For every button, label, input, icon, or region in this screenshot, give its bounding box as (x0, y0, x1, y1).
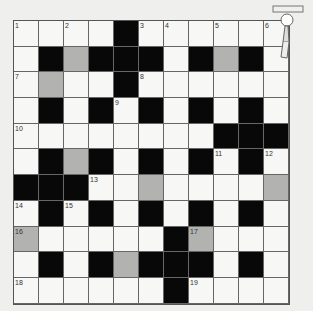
crossword-cell[interactable]: 3 (139, 21, 164, 47)
crossword-cell[interactable] (64, 252, 89, 278)
crossword-cell[interactable] (89, 278, 114, 304)
crossword-cell[interactable] (114, 201, 139, 227)
crossword-cell[interactable] (264, 278, 289, 304)
black-square (164, 278, 189, 304)
crossword-cell[interactable] (164, 72, 189, 98)
crossword-cell[interactable] (14, 47, 39, 73)
crossword-cell[interactable]: 8 (139, 72, 164, 98)
crossword-cell[interactable] (14, 98, 39, 124)
crossword-cell[interactable] (39, 227, 64, 253)
crossword-cell[interactable] (89, 21, 114, 47)
shaded-square[interactable] (114, 252, 139, 278)
black-square (114, 47, 139, 73)
black-square (39, 201, 64, 227)
crossword-cell[interactable] (189, 72, 214, 98)
black-square (139, 149, 164, 175)
shaded-square[interactable] (214, 47, 239, 73)
black-square (14, 175, 39, 201)
shaded-square[interactable] (264, 175, 289, 201)
crossword-cell[interactable] (89, 72, 114, 98)
clue-number: 13 (90, 175, 98, 184)
crossword-cell[interactable] (139, 227, 164, 253)
black-square (214, 124, 239, 150)
crossword-cell[interactable] (214, 72, 239, 98)
clue-number: 15 (65, 201, 73, 210)
black-square (39, 47, 64, 73)
shaded-square[interactable] (139, 175, 164, 201)
crossword-cell[interactable]: 9 (114, 98, 139, 124)
crossword-cell[interactable] (264, 98, 289, 124)
crossword-cell[interactable] (214, 175, 239, 201)
crossword-cell[interactable] (189, 21, 214, 47)
black-square (239, 47, 264, 73)
crossword-cell[interactable] (164, 124, 189, 150)
crossword-cell[interactable] (114, 278, 139, 304)
crossword-cell[interactable] (264, 227, 289, 253)
crossword-cell[interactable] (214, 278, 239, 304)
crossword-cell[interactable]: 18 (14, 278, 39, 304)
crossword-cell[interactable] (164, 149, 189, 175)
crossword-cell[interactable]: 11 (214, 149, 239, 175)
crossword-cell[interactable] (39, 21, 64, 47)
crossword-cell[interactable]: 14 (14, 201, 39, 227)
crossword-cell[interactable] (264, 201, 289, 227)
black-square (264, 124, 289, 150)
crossword-cell[interactable] (164, 201, 189, 227)
crossword-cell[interactable] (239, 21, 264, 47)
crossword-cell[interactable] (139, 278, 164, 304)
crossword-cell[interactable] (239, 175, 264, 201)
crossword-cell[interactable] (114, 227, 139, 253)
shaded-square[interactable] (64, 149, 89, 175)
black-square (189, 252, 214, 278)
crossword-cell[interactable] (89, 124, 114, 150)
black-square (239, 149, 264, 175)
black-square (139, 252, 164, 278)
black-square (239, 252, 264, 278)
crossword-cell[interactable] (39, 124, 64, 150)
crossword-cell[interactable] (164, 175, 189, 201)
crossword-cell[interactable] (64, 98, 89, 124)
crossword-cell[interactable] (214, 98, 239, 124)
crossword-cell[interactable] (164, 47, 189, 73)
crossword-cell[interactable] (189, 124, 214, 150)
crossword-cell[interactable] (14, 149, 39, 175)
crossword-cell[interactable] (114, 124, 139, 150)
crossword-cell[interactable] (64, 124, 89, 150)
black-square (89, 47, 114, 73)
shaded-square[interactable] (39, 72, 64, 98)
shaded-square[interactable] (64, 47, 89, 73)
crossword-cell[interactable] (214, 201, 239, 227)
crossword-cell[interactable] (64, 227, 89, 253)
crossword-cell[interactable]: 12 (264, 149, 289, 175)
crossword-cell[interactable] (14, 252, 39, 278)
crossword-cell[interactable]: 7 (14, 72, 39, 98)
crossword-cell[interactable]: 2 (64, 21, 89, 47)
crossword-cell[interactable] (39, 278, 64, 304)
crossword-cell[interactable] (114, 149, 139, 175)
crossword-cell[interactable] (239, 278, 264, 304)
crossword-cell[interactable]: 13 (89, 175, 114, 201)
crossword-cell[interactable]: 1 (14, 21, 39, 47)
crossword-cell[interactable] (139, 124, 164, 150)
crossword-cell[interactable]: 10 (14, 124, 39, 150)
crossword-cell[interactable] (64, 72, 89, 98)
crossword-cell[interactable]: 4 (164, 21, 189, 47)
crossword-cell[interactable] (114, 175, 139, 201)
black-square (139, 98, 164, 124)
crossword-cell[interactable] (264, 252, 289, 278)
crossword-cell[interactable]: 15 (64, 201, 89, 227)
crossword-cell[interactable] (239, 227, 264, 253)
crossword-cell[interactable] (164, 98, 189, 124)
crossword-cell[interactable] (239, 72, 264, 98)
crossword-cell[interactable] (214, 227, 239, 253)
shaded-square[interactable]: 17 (189, 227, 214, 253)
crossword-cell[interactable] (264, 72, 289, 98)
shaded-square[interactable]: 16 (14, 227, 39, 253)
crossword-cell[interactable] (89, 227, 114, 253)
clue-number: 16 (15, 227, 23, 236)
crossword-cell[interactable] (189, 175, 214, 201)
crossword-cell[interactable] (214, 252, 239, 278)
crossword-cell[interactable] (64, 278, 89, 304)
crossword-cell[interactable]: 5 (214, 21, 239, 47)
crossword-cell[interactable]: 19 (189, 278, 214, 304)
